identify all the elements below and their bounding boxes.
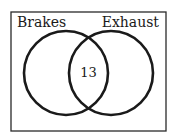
intersection-value: 13 <box>80 65 97 80</box>
venn-diagram: Brakes Exhaust 13 <box>0 0 177 133</box>
label-exhaust: Exhaust <box>102 14 160 30</box>
label-brakes: Brakes <box>17 14 66 30</box>
